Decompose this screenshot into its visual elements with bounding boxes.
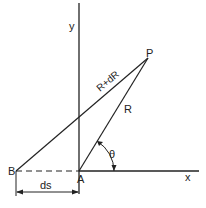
label-point-b: B: [8, 165, 15, 177]
arrowhead-left-icon: [16, 190, 23, 195]
label-x-axis: x: [185, 171, 191, 183]
label-point-p: P: [146, 47, 153, 59]
geometry-diagram: y x P A B R+dR R θ ds: [0, 0, 206, 208]
arrowhead-right-icon: [72, 190, 79, 195]
label-y-axis: y: [69, 20, 75, 32]
arc-arrowhead-bottom-icon: [112, 165, 117, 171]
label-angle-theta: θ: [109, 148, 115, 160]
label-distance-ds: ds: [40, 179, 52, 191]
label-segment-bp: R+dR: [94, 68, 121, 93]
label-segment-ap: R: [124, 103, 132, 115]
label-point-a: A: [77, 173, 85, 185]
